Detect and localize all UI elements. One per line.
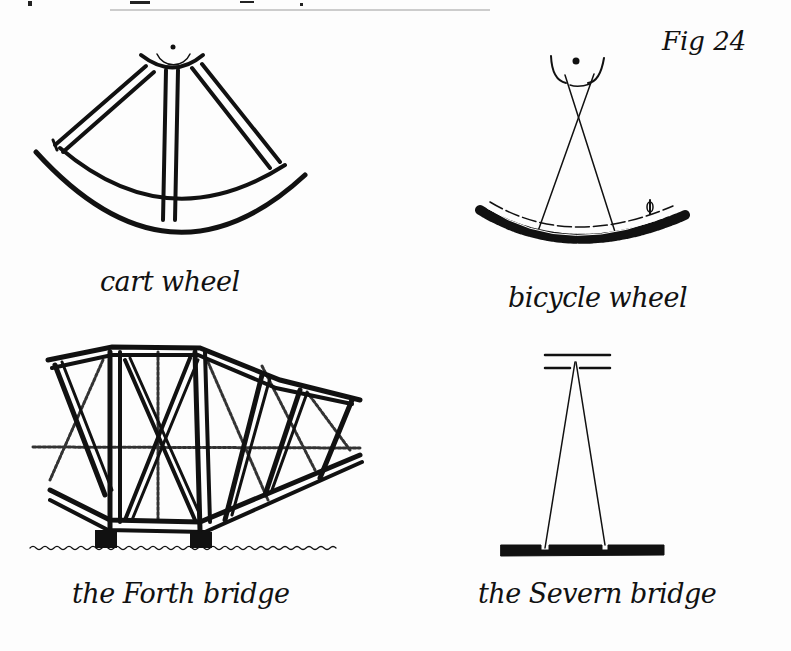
caption-bicycle-wheel: bicycle wheel (508, 282, 687, 313)
cart-wheel-drawing (36, 45, 305, 233)
bicycle-wheel-drawing (480, 56, 685, 239)
severn-bridge-drawing (501, 355, 664, 556)
figure-canvas: Fig 24 (0, 0, 791, 651)
forth-bridge-drawing (30, 347, 362, 550)
caption-forth-bridge: the Forth bridge (72, 578, 289, 609)
figure-label: Fig 24 (661, 26, 746, 56)
caption-cart-wheel: cart wheel (100, 266, 240, 297)
caption-severn-bridge: the Severn bridge (478, 578, 716, 609)
